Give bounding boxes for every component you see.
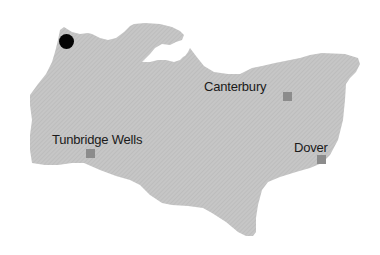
city-marker-canterbury[interactable] <box>283 92 292 101</box>
location-pin-icon[interactable] <box>59 34 74 49</box>
county-shape <box>30 23 360 236</box>
city-label-canterbury: Canterbury <box>204 80 266 93</box>
city-marker-tunbridge-wells[interactable] <box>86 149 95 158</box>
map-canvas <box>0 0 380 255</box>
region-outline <box>0 0 380 255</box>
city-label-dover: Dover <box>294 141 328 154</box>
city-label-tunbridge-wells: Tunbridge Wells <box>52 133 142 146</box>
city-marker-dover[interactable] <box>317 155 326 164</box>
